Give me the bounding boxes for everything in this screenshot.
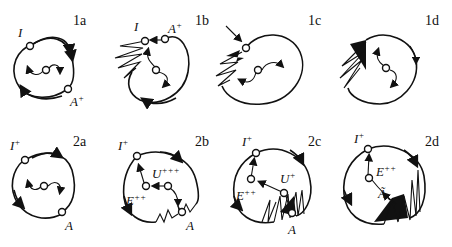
svg-text:A: A <box>64 218 73 233</box>
panel-1d: 1d <box>340 13 439 104</box>
panel-label-2b: 2b <box>195 134 209 149</box>
state-node-i-plus <box>365 146 372 153</box>
phase-portrait-figure: 1a I A+ 1b I A+ 1c <box>0 0 452 247</box>
state-node-saddle <box>243 45 250 52</box>
panel-label-1d: 1d <box>425 13 439 28</box>
state-node-i-plus <box>134 153 141 160</box>
svg-text:I: I <box>133 19 139 34</box>
svg-text:U+: U+ <box>280 170 295 186</box>
svg-text:I: I <box>17 25 23 40</box>
state-node-a-plus <box>162 36 169 43</box>
svg-text:A: A <box>287 222 296 237</box>
panel-label-2d: 2d <box>425 134 439 149</box>
panel-2c: 2c I+ U+ E++ A <box>234 133 322 237</box>
panel-2a: 2a I+ A <box>9 134 87 233</box>
state-node-e-plus-plus <box>143 183 150 190</box>
state-node-u-plus <box>281 190 288 197</box>
state-node-center <box>153 67 160 74</box>
state-node-a <box>179 209 186 216</box>
svg-text:Ã: Ã <box>377 186 386 201</box>
state-node-i-plus <box>253 150 260 157</box>
panel-1a: 1a I A+ <box>14 13 87 109</box>
state-node-e-plus-plus <box>248 176 255 183</box>
state-node-center <box>383 65 390 72</box>
state-node-e-plus-plus <box>366 175 373 182</box>
svg-text:I+: I+ <box>241 133 252 149</box>
svg-text:A+: A+ <box>69 93 84 109</box>
panel-label-2c: 2c <box>308 134 321 149</box>
state-node-center <box>255 67 262 74</box>
state-node-i <box>142 38 149 45</box>
panel-label-1c: 1c <box>308 13 321 28</box>
panel-2b: 2b I+ U+++ E++ A <box>117 134 209 233</box>
state-node-center <box>43 67 50 74</box>
state-node-u-plus-plus-plus <box>165 183 172 190</box>
svg-text:A: A <box>185 218 194 233</box>
panel-2d: 2d I+ E++ Ã <box>344 130 439 224</box>
svg-text:E++: E++ <box>125 192 146 208</box>
svg-text:I+: I+ <box>9 137 20 153</box>
state-node-i <box>27 43 34 50</box>
svg-text:U+++: U+++ <box>152 165 180 181</box>
panel-1c: 1c <box>216 13 321 104</box>
state-node-a <box>59 209 66 216</box>
svg-text:I+: I+ <box>117 137 128 153</box>
svg-text:E++: E++ <box>235 187 256 203</box>
panel-label-1a: 1a <box>73 13 87 28</box>
svg-text:I+: I+ <box>353 130 364 146</box>
state-node-i-plus <box>22 157 29 164</box>
state-node-a <box>289 210 296 217</box>
panel-label-1b: 1b <box>195 13 209 28</box>
svg-text:E++: E++ <box>375 163 396 179</box>
svg-text:A+: A+ <box>167 20 182 36</box>
state-node-a-plus <box>65 86 72 93</box>
panel-label-2a: 2a <box>73 134 87 149</box>
panel-1b: 1b I A+ <box>115 13 209 104</box>
state-node-center <box>41 183 48 190</box>
